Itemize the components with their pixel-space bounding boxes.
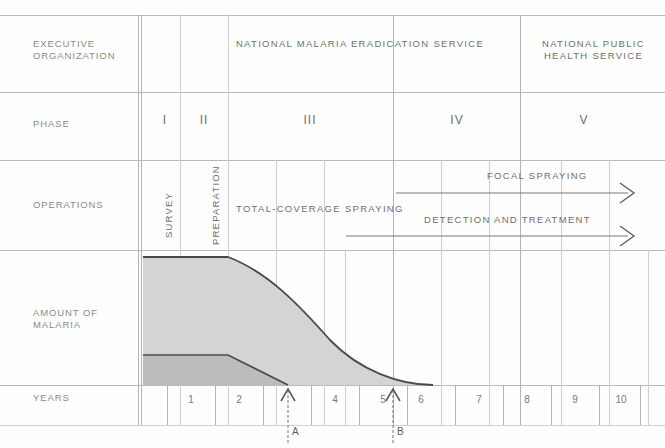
- marker-label-a: A: [292, 426, 299, 437]
- marker-arrows-layer: [0, 0, 665, 448]
- diagram-canvas: EXECUTIVE ORGANIZATION NATIONAL MALARIA …: [0, 0, 665, 448]
- marker-label-b: B: [397, 426, 404, 437]
